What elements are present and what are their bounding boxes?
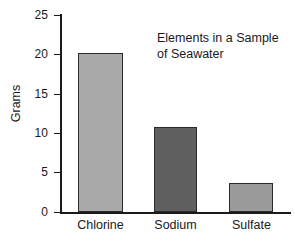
bar-sodium xyxy=(154,127,197,212)
chart-title: Elements in a Sample of Seawater xyxy=(157,30,295,62)
bar-chart-figure: Grams 25 20 15 10 5 0 Chlorine Sodium Su… xyxy=(0,0,295,245)
chart-title-line-1: Elements in a Sample xyxy=(157,31,279,45)
bar-chlorine xyxy=(78,53,123,212)
x-category-label-sulfate: Sulfate xyxy=(215,218,288,232)
x-category-label-sodium: Sodium xyxy=(139,218,212,232)
chart-title-line-2: of Seawater xyxy=(157,46,295,62)
bar-sulfate xyxy=(229,183,273,212)
x-category-label-chlorine: Chlorine xyxy=(64,218,137,232)
